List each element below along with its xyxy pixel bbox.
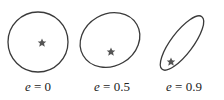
- orbit-e09: [153, 10, 210, 76]
- orbit-e0: [8, 12, 68, 72]
- orbit-e05: [70, 2, 150, 78]
- star-icon: [38, 39, 47, 47]
- star-icon: [167, 58, 176, 66]
- label-e09: e = 0.9: [166, 79, 202, 95]
- star-icon: [107, 48, 116, 56]
- label-e0: e = 0: [25, 79, 51, 95]
- label-e05: e = 0.5: [94, 79, 130, 95]
